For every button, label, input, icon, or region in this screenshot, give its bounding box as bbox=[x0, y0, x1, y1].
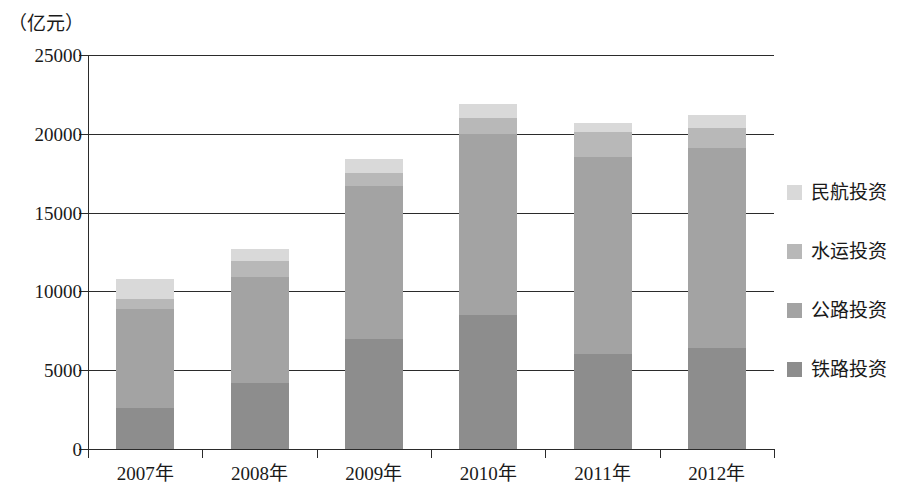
gridline bbox=[88, 370, 774, 371]
bar-segment bbox=[116, 279, 174, 299]
legend-item-label: 水运投资 bbox=[811, 242, 887, 261]
x-axis-tick-mark bbox=[202, 449, 203, 458]
bar-segment bbox=[574, 132, 632, 157]
bar-segment bbox=[688, 148, 746, 348]
y-axis-tick-label: 20000 bbox=[35, 124, 83, 143]
x-axis-category-label: 2008年 bbox=[231, 458, 288, 485]
x-axis-tick-mark bbox=[774, 449, 775, 458]
bar-segment bbox=[231, 277, 289, 383]
x-axis-tick-mark bbox=[660, 449, 661, 458]
legend-item[interactable]: 公路投资 bbox=[787, 301, 887, 320]
legend-item-label: 民航投资 bbox=[811, 183, 887, 202]
x-axis-category-label: 2011年 bbox=[574, 458, 630, 485]
gridline bbox=[88, 213, 774, 214]
y-axis-tick-label: 0 bbox=[73, 440, 83, 459]
legend-item[interactable]: 水运投资 bbox=[787, 242, 887, 261]
bar-segment bbox=[345, 159, 403, 173]
bar-segment bbox=[459, 118, 517, 134]
bar-segment bbox=[231, 249, 289, 262]
bar-segment bbox=[688, 115, 746, 128]
bar-segment bbox=[688, 128, 746, 148]
bar-segment bbox=[116, 309, 174, 408]
legend-color-swatch bbox=[787, 244, 802, 259]
legend-color-swatch bbox=[787, 185, 802, 200]
legend-item[interactable]: 铁路投资 bbox=[787, 360, 887, 379]
stacked-bar-chart: （亿元） 0500010000150002000025000 2007年2008… bbox=[0, 0, 902, 488]
y-axis-tick-label: 15000 bbox=[35, 203, 83, 222]
y-axis-tick-label: 25000 bbox=[35, 46, 83, 65]
bar-stack bbox=[688, 115, 746, 449]
gridline bbox=[88, 134, 774, 135]
bar-segment bbox=[459, 134, 517, 315]
x-axis-tick-mark bbox=[545, 449, 546, 458]
bar-segment bbox=[574, 123, 632, 132]
bar-stack bbox=[345, 159, 403, 449]
bar-segment bbox=[459, 315, 517, 449]
bar-segment bbox=[574, 157, 632, 354]
bar-stack bbox=[574, 123, 632, 449]
gridline bbox=[88, 291, 774, 292]
bar-segment bbox=[345, 186, 403, 339]
legend-item[interactable]: 民航投资 bbox=[787, 183, 887, 202]
bar-segment bbox=[688, 348, 746, 449]
y-axis-unit-label: （亿元） bbox=[8, 8, 84, 35]
bar-stack bbox=[116, 279, 174, 449]
x-axis-tick-mark bbox=[88, 449, 89, 458]
bar-segment bbox=[231, 261, 289, 277]
bar-segment bbox=[231, 383, 289, 449]
bar-segment bbox=[345, 339, 403, 449]
legend-item-label: 公路投资 bbox=[811, 301, 887, 320]
legend-item-label: 铁路投资 bbox=[811, 360, 887, 379]
x-axis-category-label: 2010年 bbox=[460, 458, 517, 485]
plot-area: 0500010000150002000025000 bbox=[88, 55, 774, 449]
gridline bbox=[88, 55, 774, 56]
x-axis-tick-mark bbox=[431, 449, 432, 458]
bar-stack bbox=[231, 249, 289, 449]
legend-color-swatch bbox=[787, 303, 802, 318]
bar-segment bbox=[116, 299, 174, 308]
x-axis-category-label: 2009年 bbox=[345, 458, 402, 485]
bar-segment bbox=[459, 104, 517, 118]
bar-segment bbox=[116, 408, 174, 449]
x-axis-tick-mark bbox=[317, 449, 318, 458]
y-axis-tick-label: 10000 bbox=[35, 282, 83, 301]
x-axis-category-label: 2012年 bbox=[688, 458, 745, 485]
bar-stack bbox=[459, 104, 517, 449]
bar-segment bbox=[345, 173, 403, 186]
legend-color-swatch bbox=[787, 362, 802, 377]
x-axis-category-label: 2007年 bbox=[117, 458, 174, 485]
y-axis-tick-label: 5000 bbox=[44, 361, 82, 380]
bar-segment bbox=[574, 354, 632, 449]
